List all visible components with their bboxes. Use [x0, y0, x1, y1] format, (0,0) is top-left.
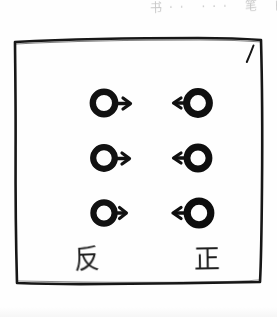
caption-left-label: 反 [74, 245, 100, 273]
caption-right-label: 正 [194, 245, 220, 273]
circle-arrow-right-icon [84, 82, 154, 124]
scan-edge-shadow [0, 307, 277, 317]
circle-arrow-left-icon [164, 82, 234, 124]
symbol-row [12, 192, 264, 234]
circle-arrow-left-icon [164, 192, 234, 234]
scanned-page: 书·· ··· 笔 的 [0, 0, 277, 317]
circle-arrow-left-icon [164, 137, 234, 179]
symbol-row [12, 82, 264, 124]
circle-arrow-right-icon [84, 137, 154, 179]
caption-row: 反 正 [12, 244, 264, 286]
circle-arrow-right-icon [84, 192, 154, 234]
symbol-row [12, 137, 264, 179]
top-margin-handwriting: 书·· ··· 笔 的 [150, 0, 275, 14]
